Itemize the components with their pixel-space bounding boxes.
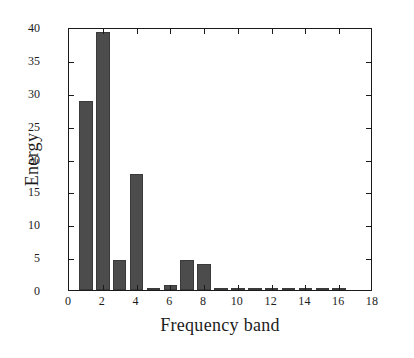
- x-tick-label: 4: [132, 294, 138, 309]
- plot-area: [68, 28, 372, 291]
- y-tick-mark: [366, 62, 371, 63]
- bar: [316, 288, 330, 290]
- y-tick-mark: [366, 161, 371, 162]
- x-tick-label: 6: [166, 294, 172, 309]
- x-tick-label: 0: [65, 294, 71, 309]
- bar: [248, 288, 262, 290]
- x-axis-label: Frequency band: [68, 315, 372, 336]
- bar: [147, 288, 161, 290]
- bar: [96, 32, 110, 290]
- y-tick-mark: [69, 161, 74, 162]
- x-tick-label: 10: [231, 294, 243, 309]
- x-tick-mark: [272, 285, 273, 290]
- bar: [214, 288, 228, 290]
- y-tick-mark: [366, 226, 371, 227]
- x-tick-label: 12: [264, 294, 276, 309]
- y-tick-mark: [69, 95, 74, 96]
- bar: [113, 260, 127, 290]
- figure-canvas: 024681012141618 0510152025303540 Frequen…: [0, 0, 414, 358]
- x-tick-mark: [137, 285, 138, 290]
- x-tick-mark: [204, 29, 205, 34]
- bars-layer: [69, 29, 371, 290]
- y-tick-mark: [366, 95, 371, 96]
- x-tick-mark: [305, 29, 306, 34]
- y-tick-mark: [69, 226, 74, 227]
- x-tick-label: 2: [99, 294, 105, 309]
- bar: [79, 101, 93, 290]
- y-tick-mark: [366, 193, 371, 194]
- y-tick-mark: [69, 62, 74, 63]
- x-tick-mark: [305, 285, 306, 290]
- x-tick-mark: [103, 285, 104, 290]
- x-tick-mark: [103, 29, 104, 34]
- bar: [180, 260, 194, 290]
- x-tick-label: 16: [332, 294, 344, 309]
- bar: [130, 174, 144, 290]
- y-tick-mark: [69, 193, 74, 194]
- x-tick-mark: [272, 29, 273, 34]
- x-tick-mark: [170, 29, 171, 34]
- x-tick-mark: [238, 285, 239, 290]
- y-tick-mark: [69, 259, 74, 260]
- y-axis-label: Energy: [18, 28, 46, 291]
- x-tick-mark: [170, 285, 171, 290]
- x-tick-label: 18: [366, 294, 378, 309]
- x-tick-mark: [339, 285, 340, 290]
- x-tick-mark: [137, 29, 138, 34]
- bar: [282, 288, 296, 290]
- y-tick-mark: [366, 128, 371, 129]
- x-tick-label: 14: [298, 294, 310, 309]
- y-tick-mark: [366, 259, 371, 260]
- y-tick-mark: [69, 128, 74, 129]
- x-tick-mark: [204, 285, 205, 290]
- x-tick-mark: [238, 29, 239, 34]
- x-tick-label: 8: [200, 294, 206, 309]
- x-tick-mark: [339, 29, 340, 34]
